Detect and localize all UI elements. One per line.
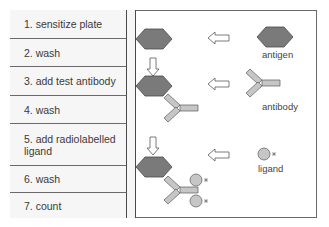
antigen-label: antigen xyxy=(262,49,293,60)
left-arrow-icon xyxy=(208,78,229,90)
antigen-shape-plate xyxy=(136,29,172,49)
assay-diagram: antigen antibody ligand xyxy=(0,0,329,227)
ligand-label: ligand xyxy=(258,163,283,174)
antigen-shape-step5 xyxy=(136,157,172,177)
down-arrow-icon xyxy=(147,58,159,76)
antibody-shape-step3 xyxy=(164,94,198,122)
down-arrow-icon xyxy=(147,137,159,155)
ligand-shape-bound xyxy=(190,174,208,186)
antigen-shape-step3 xyxy=(136,76,172,96)
ligand-legend-icon xyxy=(258,148,276,160)
ligand-shape-bound xyxy=(190,195,208,207)
antibody-legend-icon xyxy=(246,69,280,97)
antibody-label: antibody xyxy=(262,101,298,112)
left-arrow-icon xyxy=(208,32,229,44)
antigen-legend-icon xyxy=(257,27,293,47)
left-arrow-icon xyxy=(208,149,229,161)
